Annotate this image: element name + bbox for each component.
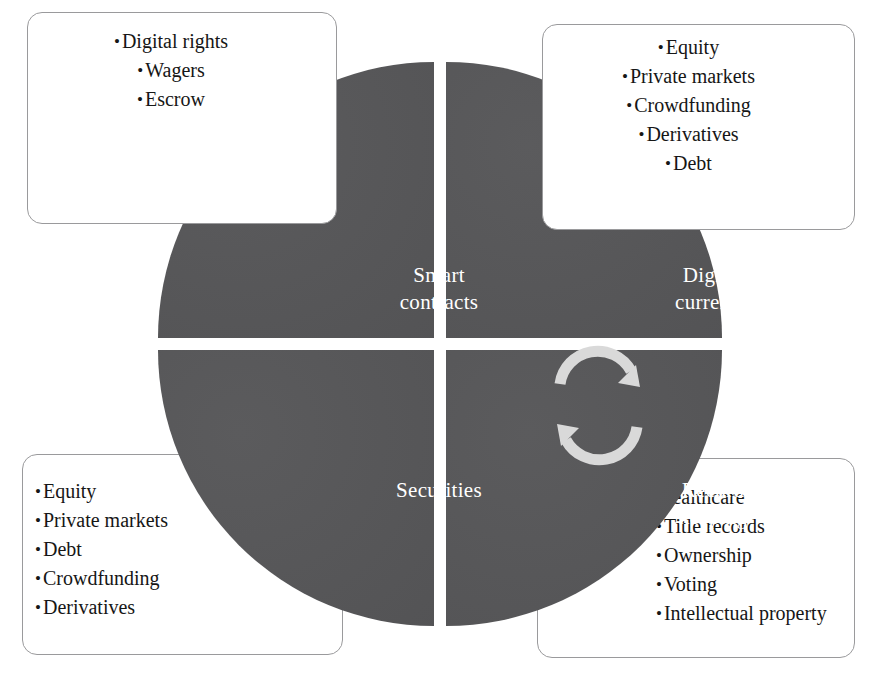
list-item: •Escrow [50, 85, 292, 114]
bullet-icon: • [626, 96, 634, 115]
bullet-icon: • [35, 482, 43, 501]
bullet-icon: • [622, 67, 630, 86]
list-item-label: Digital rights [122, 30, 228, 52]
bullet-icon: • [35, 540, 43, 559]
list-item-label: Escrow [145, 88, 205, 110]
list-item: •Private markets [563, 62, 814, 91]
bullet-icon: • [665, 154, 673, 173]
bullet-icon: • [137, 90, 145, 109]
list-item-label: Equity [666, 36, 719, 58]
quadrant-label-digital-currency: Digital currency [628, 262, 798, 316]
callout-digital-currency: •Equity •Private markets •Crowdfunding •… [542, 24, 855, 230]
list-item-label: Debt [673, 152, 712, 174]
quadrant-label-smart-contracts: Smart contracts [354, 262, 524, 316]
list-item-label: Wagers [145, 59, 204, 81]
list-item: •Debt [563, 149, 814, 178]
list-item-label: Derivatives [43, 596, 135, 618]
bullet-icon: • [658, 38, 666, 57]
list-item: •Crowdfunding [563, 91, 814, 120]
list-item: •Equity [563, 33, 814, 62]
list-item-label: Derivatives [646, 123, 738, 145]
list-item-label: Private markets [43, 509, 168, 531]
bullet-icon: • [35, 598, 43, 617]
list-item-label: Debt [43, 538, 82, 560]
callout-list-digital-currency: •Equity •Private markets •Crowdfunding •… [543, 25, 854, 178]
list-item-label: Crowdfunding [43, 567, 160, 589]
callout-smart-contracts: •Digital rights •Wagers •Escrow [27, 12, 337, 224]
bullet-icon: • [114, 32, 122, 51]
list-item-label: Crowdfunding [634, 94, 751, 116]
list-item: •Digital rights [50, 27, 292, 56]
bullet-icon: • [35, 511, 43, 530]
list-item-label: Private markets [630, 65, 755, 87]
quadrant-label-securities: Securities [354, 477, 524, 504]
list-item: •Derivatives [563, 120, 814, 149]
callout-list-smart-contracts: •Digital rights •Wagers •Escrow [28, 13, 336, 114]
quadrant-label-record-keeping: Record keeping [628, 477, 798, 531]
bullet-icon: • [35, 569, 43, 588]
blockchain-quadrant-diagram: •Digital rights •Wagers •Escrow •Equity … [0, 0, 881, 692]
list-item: •Wagers [50, 56, 292, 85]
list-item-label: Equity [43, 480, 96, 502]
